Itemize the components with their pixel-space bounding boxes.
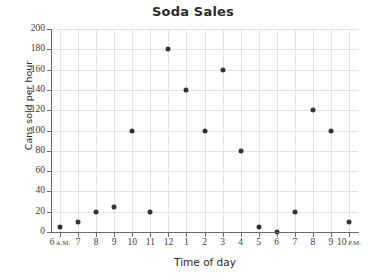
y-axis-tick-label: 160	[5, 64, 45, 74]
gridline-vertical	[313, 29, 314, 232]
x-axis-title: Time of day	[51, 256, 359, 268]
gridline-vertical	[295, 29, 296, 232]
y-axis-tick-label: 100	[5, 125, 45, 135]
gridline-vertical	[150, 29, 151, 232]
gridline-vertical	[186, 29, 187, 232]
gridline-vertical	[60, 29, 61, 232]
x-axis-tick-label: 4	[238, 237, 243, 247]
data-point	[112, 204, 117, 209]
data-point	[256, 224, 261, 229]
gridline-vertical	[277, 29, 278, 232]
x-axis-tick-label: 7	[292, 237, 297, 247]
data-point	[130, 128, 135, 133]
data-point	[202, 128, 207, 133]
data-point	[328, 128, 333, 133]
y-axis-tick-label: 60	[5, 165, 45, 175]
gridline-vertical	[168, 29, 169, 232]
x-axis-tick-label: 3	[220, 237, 225, 247]
y-axis-tick	[47, 49, 52, 50]
x-axis-tick-label: 10	[128, 237, 138, 247]
chart-figure: Soda Sales Cans sold per hour 0204060801…	[0, 0, 386, 280]
y-axis-tick	[47, 212, 52, 213]
x-axis-tick-label: 6	[274, 237, 279, 247]
gridline-vertical	[349, 29, 350, 232]
data-point	[58, 224, 63, 229]
x-axis-tick-label: 9	[329, 237, 334, 247]
y-axis-tick-label: 40	[5, 185, 45, 195]
gridline-vertical	[259, 29, 260, 232]
x-axis-tick-label: 1	[184, 237, 189, 247]
x-axis-tick-label: 10 P.M.	[337, 237, 361, 247]
gridline-vertical	[223, 29, 224, 232]
y-axis-tick	[47, 171, 52, 172]
data-point	[166, 47, 171, 52]
y-axis-tick	[47, 90, 52, 91]
data-point	[148, 209, 153, 214]
y-axis-tick	[47, 110, 52, 111]
gridline-vertical	[114, 29, 115, 232]
gridline-vertical	[78, 29, 79, 232]
plot-area	[51, 29, 358, 232]
x-axis-tick-label: 7	[76, 237, 81, 247]
chart-title: Soda Sales	[0, 4, 386, 19]
y-axis-tick	[47, 151, 52, 152]
y-axis-tick-label: 120	[5, 104, 45, 114]
x-axis-tick-label: 8	[94, 237, 99, 247]
gridline-vertical	[96, 29, 97, 232]
y-axis-tick-label: 20	[5, 206, 45, 216]
data-point	[184, 87, 189, 92]
x-axis-tick-label: 6 A.M.	[50, 237, 71, 247]
x-axis-tick-label: 2	[202, 237, 207, 247]
y-axis-tick-label: 200	[5, 23, 45, 33]
x-axis-tick-label: 5	[256, 237, 261, 247]
data-point	[94, 209, 99, 214]
data-point	[292, 209, 297, 214]
y-axis-tick	[47, 191, 52, 192]
y-axis-tick-label: 80	[5, 145, 45, 155]
y-axis-tick	[47, 232, 52, 233]
y-axis-tick	[47, 131, 52, 132]
y-axis-tick	[47, 29, 52, 30]
y-axis-tick-label: 180	[5, 43, 45, 53]
x-axis-tick-label: 9	[112, 237, 117, 247]
y-axis-tick	[47, 70, 52, 71]
data-point	[220, 67, 225, 72]
data-point	[310, 108, 315, 113]
data-point	[76, 219, 81, 224]
data-point	[346, 219, 351, 224]
gridline-vertical	[241, 29, 242, 232]
data-point	[238, 148, 243, 153]
x-axis-tick-label: 12	[164, 237, 174, 247]
y-axis-tick-label: 140	[5, 84, 45, 94]
x-axis-tick-label: 11	[146, 237, 155, 247]
y-axis-tick-label: 0	[5, 226, 45, 236]
x-axis-tick-label: 8	[310, 237, 315, 247]
